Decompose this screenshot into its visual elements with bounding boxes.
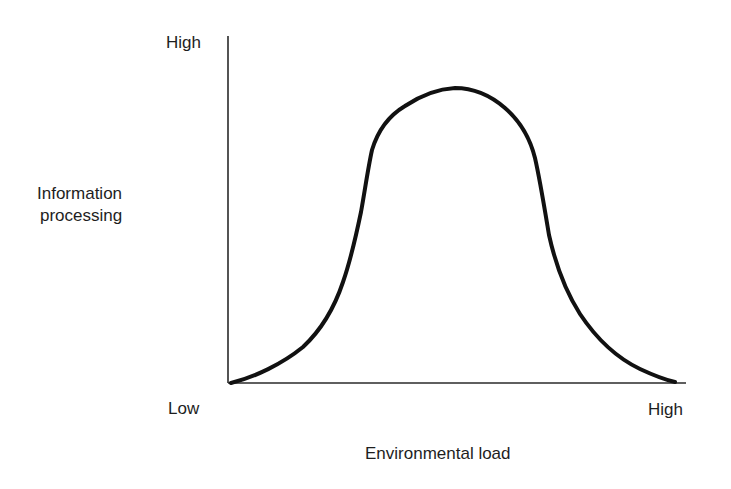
y-axis-high-label: High (166, 33, 201, 53)
inverted-u-diagram: High Information processing Low High Env… (0, 0, 731, 489)
plot-area (0, 0, 731, 489)
x-axis-low-label: Low (168, 399, 199, 419)
x-axis-high-label: High (648, 400, 683, 420)
y-axis-title-line2: processing (37, 205, 122, 227)
y-axis-title-line1: Information (37, 183, 122, 205)
information-processing-curve (231, 88, 675, 383)
y-axis-title: Information processing (37, 183, 122, 227)
x-axis-title: Environmental load (365, 444, 511, 464)
